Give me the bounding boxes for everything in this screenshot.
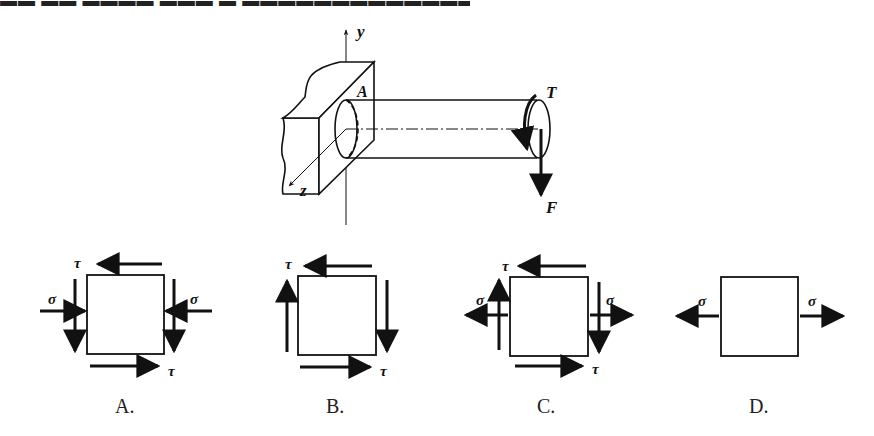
element-square	[721, 277, 798, 356]
option-a-label[interactable]: A.	[115, 395, 134, 417]
option-d-stress-element	[677, 277, 843, 356]
section-a-label: A	[356, 83, 368, 100]
sigma-label: σ	[808, 293, 817, 309]
force-label: F	[545, 198, 558, 217]
option-c-label[interactable]: C.	[537, 395, 555, 417]
tau-label: τ	[168, 363, 176, 379]
element-square	[87, 275, 164, 354]
z-axis-label: z	[299, 181, 307, 200]
sigma-label: σ	[606, 292, 615, 308]
cantilever-shaft-diagram	[282, 30, 550, 225]
torque-label: T	[546, 83, 557, 102]
option-d-label[interactable]: D.	[749, 395, 768, 417]
sigma-label: σ	[698, 293, 707, 309]
mechanics-figure: y z A T F τ τ σ σ A. τ τ B. τ τ σ σ C.	[0, 0, 874, 436]
sigma-label: σ	[190, 291, 199, 307]
option-b-stress-element	[287, 266, 387, 367]
option-c-stress-element	[466, 266, 632, 366]
tau-label: τ	[74, 255, 82, 271]
element-square	[298, 276, 376, 355]
element-square	[510, 277, 588, 356]
tau-label: τ	[592, 361, 600, 377]
y-axis-label: y	[355, 22, 365, 41]
sigma-label: σ	[476, 292, 485, 308]
option-a-stress-element	[40, 264, 212, 366]
option-b-label[interactable]: B.	[326, 395, 344, 417]
tau-label: τ	[380, 363, 388, 379]
tau-label: τ	[502, 258, 510, 274]
tau-label: τ	[285, 256, 293, 272]
sigma-label: σ	[48, 291, 57, 307]
